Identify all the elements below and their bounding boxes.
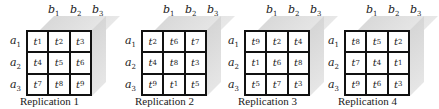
replication-caption: Replication 4 [338,95,397,107]
column-label-b1: b1 [163,3,175,18]
column-label-b2: b2 [288,3,300,18]
cell-a2-b3: t8 [288,52,309,73]
cell-a3-b3: t9 [70,74,91,95]
cell-a3-b1: t9 [345,74,366,95]
cell-a1-b1: t2 [142,31,163,52]
cell-a2-b3: t1 [388,52,409,73]
cube-side-face [410,16,424,96]
column-label-b2: b2 [185,3,197,18]
column-label-b2: b2 [388,3,400,18]
replication-4: b1b2b3a1a2a3t8t5t2t7t4t1t9t6t3Replicatio… [329,0,437,109]
treatment-grid: t9t2t4t1t6t8t5t7t3 [244,30,310,96]
cell-a3-b2: t6 [366,74,387,95]
column-label-b3: b3 [310,3,322,18]
cell-a3-b2: t1 [163,74,184,95]
cell-a2-b2: t6 [266,52,287,73]
column-label-b1: b1 [48,3,60,18]
replication-caption: Replication 2 [135,95,194,107]
row-label-a2: a2 [10,56,21,71]
cell-a1-b1: t9 [245,31,266,52]
cube-side-face [92,16,106,96]
cell-a3-b3: t3 [288,74,309,95]
cell-a2-b1: t4 [142,52,163,73]
cell-a1-b3: t2 [388,31,409,52]
column-label-b1: b1 [366,3,378,18]
row-label-a1: a1 [10,34,21,49]
cell-a3-b1: t9 [142,74,163,95]
row-label-a3: a3 [10,78,21,93]
row-label-a1: a1 [228,34,239,49]
column-label-b3: b3 [92,3,104,18]
cell-a1-b1: t1 [27,31,48,52]
cell-a3-b1: t7 [27,74,48,95]
column-label-b3: b3 [207,3,219,18]
treatment-grid: t1t2t3t4t5t6t7t8t9 [26,30,92,96]
cell-a1-b2: t6 [163,31,184,52]
cell-a2-b1: t7 [345,52,366,73]
replication-1: b1b2b3a1a2a3t1t2t3t4t5t6t7t8t9Replicatio… [2,0,110,109]
replication-3: b1b2b3a1a2a3t9t2t4t1t6t8t5t7t3Replicatio… [220,0,328,109]
row-label-a3: a3 [228,78,239,93]
cell-a3-b2: t8 [48,74,69,95]
column-label-b3: b3 [410,3,422,18]
treatment-grid: t2t6t7t4t8t3t9t1t5 [141,30,207,96]
row-label-a2: a2 [125,56,136,71]
cell-a1-b3: t7 [185,31,206,52]
cell-a2-b1: t1 [245,52,266,73]
cell-a1-b3: t3 [70,31,91,52]
replication-caption: Replication 1 [20,95,79,107]
row-label-a1: a1 [328,34,339,49]
cube-side-face [310,16,324,96]
row-label-a2: a2 [328,56,339,71]
cell-a3-b3: t5 [185,74,206,95]
cell-a1-b2: t2 [266,31,287,52]
row-label-a3: a3 [328,78,339,93]
cell-a2-b2: t8 [163,52,184,73]
cell-a2-b2: t5 [48,52,69,73]
cell-a2-b1: t4 [27,52,48,73]
row-label-a3: a3 [125,78,136,93]
cell-a3-b1: t5 [245,74,266,95]
cell-a1-b2: t5 [366,31,387,52]
cell-a1-b1: t8 [345,31,366,52]
cell-a3-b2: t7 [266,74,287,95]
cube-side-face [207,16,221,96]
treatment-grid: t8t5t2t7t4t1t9t6t3 [344,30,410,96]
row-label-a1: a1 [125,34,136,49]
replication-2: b1b2b3a1a2a3t2t6t7t4t8t3t9t1t5Replicatio… [111,0,219,109]
replication-caption: Replication 3 [238,95,297,107]
column-label-b1: b1 [266,3,278,18]
cell-a2-b3: t6 [70,52,91,73]
cell-a2-b2: t4 [366,52,387,73]
column-label-b2: b2 [70,3,82,18]
cell-a3-b3: t3 [388,74,409,95]
cell-a1-b2: t2 [48,31,69,52]
cell-a2-b3: t3 [185,52,206,73]
cell-a1-b3: t4 [288,31,309,52]
row-label-a2: a2 [228,56,239,71]
